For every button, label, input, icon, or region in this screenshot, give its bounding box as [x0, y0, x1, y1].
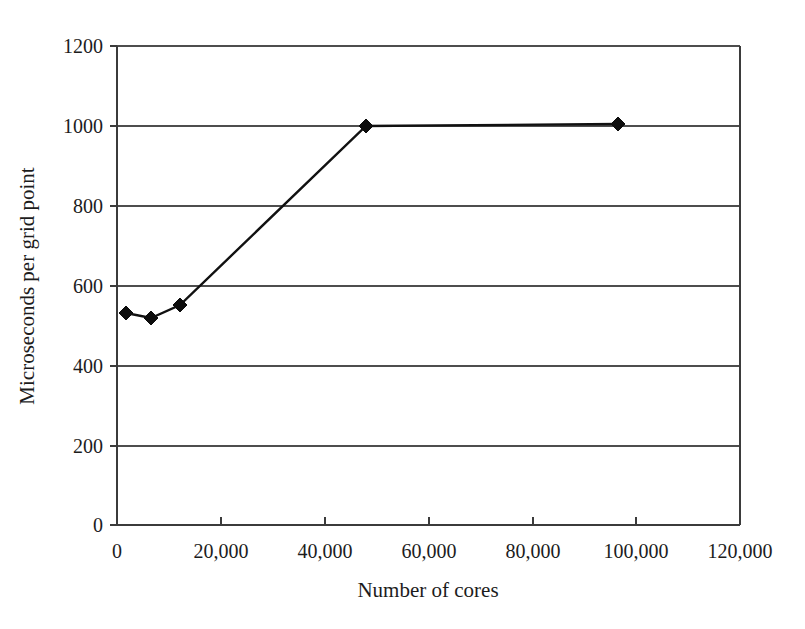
y-tick-label-1000: 1000	[63, 115, 103, 137]
y-tick-label-200: 200	[73, 435, 103, 457]
x-tick-label-20000: 20,000	[194, 540, 249, 562]
x-tick-label-80000: 80,000	[506, 540, 561, 562]
y-tick-label-600: 600	[73, 275, 103, 297]
x-axis-title: Number of cores	[357, 578, 498, 602]
y-tick-label-0: 0	[93, 514, 103, 536]
chart-figure: 1200 1000 800 600 400 200 0 0 20,000 40,…	[0, 0, 805, 629]
x-tick-label-120000: 120,000	[708, 540, 773, 562]
y-tick-label-400: 400	[73, 355, 103, 377]
y-tick-label-800: 800	[73, 195, 103, 217]
y-tick-label-1200: 1200	[63, 35, 103, 57]
x-tick-label-40000: 40,000	[298, 540, 353, 562]
x-tick-label-60000: 60,000	[402, 540, 457, 562]
y-axis-title: Microseconds per grid point	[15, 167, 39, 405]
line-chart: 1200 1000 800 600 400 200 0 0 20,000 40,…	[0, 0, 805, 629]
x-tick-label-100000: 100,000	[604, 540, 669, 562]
x-tick-label-0: 0	[112, 540, 122, 562]
